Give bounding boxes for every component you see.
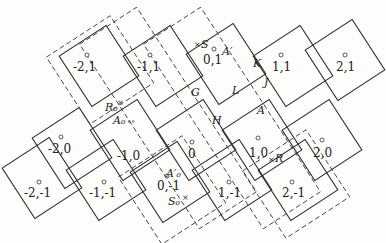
label-1-0: 1,0 [249,146,268,160]
svg-text:×: × [268,155,275,164]
svg-text:×: × [117,98,124,107]
label-S: S [201,38,209,51]
label-A-prime: A′ [221,45,233,58]
label-2-1: 2,1 [336,60,355,74]
svg-text:×: × [182,193,189,202]
label-m2-1: -2,1 [73,60,96,74]
lattice-labels: -2,1 -1,1 0,1 1,1 2,1 -2,0 -1,0 0 1,0 2,… [24,53,355,200]
label-1-m1: 1,-1 [218,186,241,200]
label-R: R [274,152,283,165]
label-H: H [211,114,222,127]
label-A0: A₀ [112,114,126,127]
svg-text:×: × [194,40,201,49]
label-m2-m1: -2,-1 [24,186,51,200]
label-0-1: 0,1 [203,53,222,67]
label-S0: S₀ [168,195,181,208]
label-A: A [256,104,265,117]
label-K: K [252,57,262,70]
label-1-1: 1,1 [272,60,291,74]
label-m1-1: -1,1 [137,60,160,74]
label-2-m1: 2,-1 [282,186,305,200]
label-m1-m1: -1,-1 [89,186,116,200]
label-G: G [191,86,200,99]
label-2-0: 2,0 [313,146,332,160]
label-0-m1: 0,-1 [157,179,180,193]
label-m2-0: -2,0 [48,142,71,156]
label-J: J [262,76,269,89]
label-A0-prime: A′₀ [165,167,181,180]
lattice-diagram: -2,1 -1,1 0,1 1,1 2,1 -2,0 -1,0 0 1,0 2,… [0,0,386,243]
label-L: L [231,84,239,97]
square-1-1 [253,26,333,107]
square-m2-1 [59,26,139,107]
label-m1-0: -1,0 [117,149,140,163]
lattice-svg: -2,1 -1,1 0,1 1,1 2,1 -2,0 -1,0 0 1,0 2,… [0,0,386,243]
svg-text:∘∘: ∘∘ [127,117,135,126]
label-0: 0 [188,147,196,161]
square-m1-0 [90,100,170,181]
